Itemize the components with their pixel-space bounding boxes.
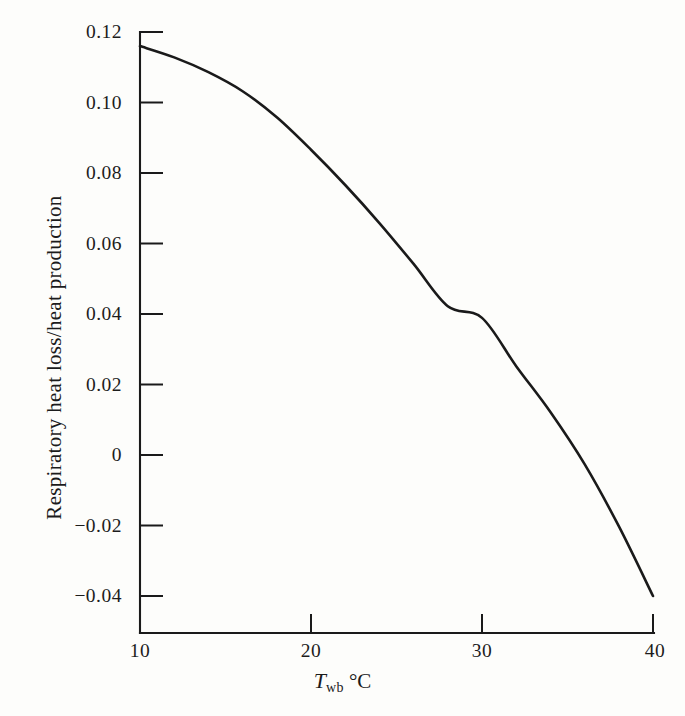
y-axis-ticks	[140, 32, 162, 596]
x-tick-label: 40	[645, 640, 666, 662]
y-tick-label: 0	[112, 444, 122, 466]
data-curve-line	[140, 46, 653, 596]
x-tick-label: 20	[301, 640, 322, 662]
x-axis-symbol: T	[314, 668, 326, 693]
y-axis-title: Respiratory heat loss/heat production	[42, 98, 67, 618]
y-tick-label: −0.02	[74, 515, 122, 537]
x-axis-subscript: wb	[326, 680, 344, 695]
y-tick-label: 0.06	[86, 233, 122, 255]
y-tick-label: 0.04	[86, 303, 122, 325]
y-tick-label: 0.08	[86, 162, 122, 184]
y-tick-label: 0.10	[86, 92, 122, 114]
x-axis-title: Twb°C	[0, 668, 685, 696]
chart-figure: 0.12 0.10 0.08 0.06 0.04 0.02 0 −0.02 −0…	[0, 0, 685, 716]
x-axis-unit: °C	[349, 669, 371, 693]
x-axis-ticks	[311, 615, 653, 633]
x-tick-label: 30	[472, 640, 493, 662]
y-tick-label: 0.02	[86, 374, 122, 396]
x-tick-label: 10	[130, 640, 151, 662]
y-tick-label: 0.12	[86, 21, 122, 43]
y-tick-label: −0.04	[74, 585, 122, 607]
